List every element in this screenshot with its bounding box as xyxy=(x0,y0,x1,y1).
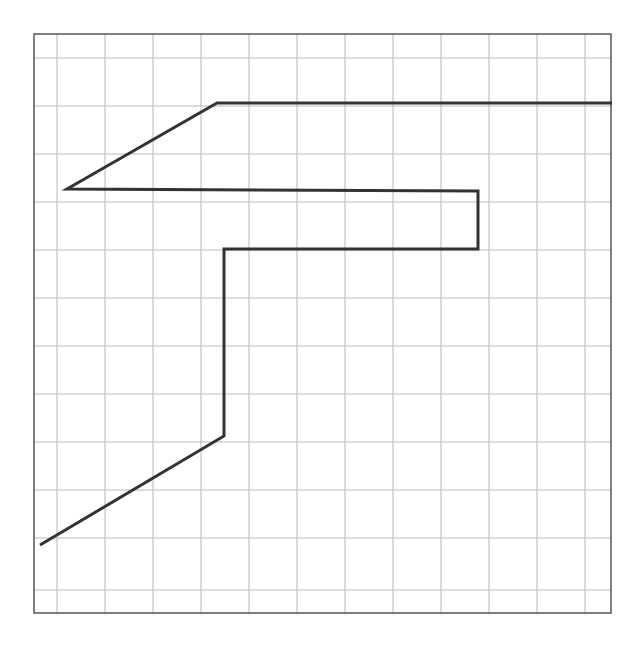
grid-horizontal-lines xyxy=(34,58,611,590)
grid-diagram xyxy=(0,0,643,646)
grid-vertical-lines xyxy=(57,34,585,613)
drawn-path xyxy=(40,103,612,545)
grid-frame xyxy=(34,34,611,613)
